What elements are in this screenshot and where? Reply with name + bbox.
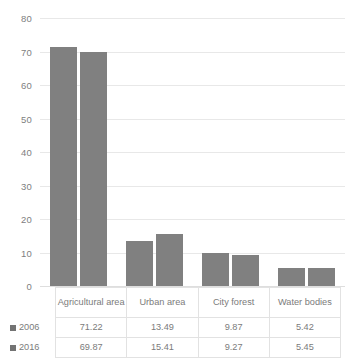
data-table-body: Agricultural areaUrban areaCity forestWa… xyxy=(8,288,341,358)
y-axis-tick-labels: 01020304050607080 xyxy=(0,18,36,286)
y-tick-label: 60 xyxy=(21,80,32,91)
y-tick-label: 50 xyxy=(21,113,32,124)
category-row: Agricultural areaUrban areaCity forestWa… xyxy=(8,288,341,318)
bar-group xyxy=(116,18,192,286)
table-cell-value: 15.41 xyxy=(127,338,198,358)
category-label: City forest xyxy=(198,288,269,318)
table-cell-value: 5.42 xyxy=(269,318,340,338)
table-row: 201669.8715.419.275.45 xyxy=(8,338,341,358)
table-cell-value: 5.45 xyxy=(269,338,340,358)
data-table: Agricultural areaUrban areaCity forestWa… xyxy=(8,287,341,358)
y-tick-label: 20 xyxy=(21,214,32,225)
bar xyxy=(50,47,77,286)
table-cell-value: 71.22 xyxy=(56,318,127,338)
table-cell-value: 9.27 xyxy=(198,338,269,358)
bar-group xyxy=(193,18,269,286)
y-tick-label: 10 xyxy=(21,247,32,258)
series-label: 2016 xyxy=(19,342,39,352)
table-cell-value: 69.87 xyxy=(56,338,127,358)
table-row: 200671.2213.499.875.42 xyxy=(8,318,341,338)
table-corner-cell xyxy=(8,288,56,318)
y-tick-label: 70 xyxy=(21,46,32,57)
y-tick-label: 80 xyxy=(21,13,32,24)
bar-group xyxy=(40,18,116,286)
table-cell-value: 9.87 xyxy=(198,318,269,338)
category-label: Urban area xyxy=(127,288,198,318)
bar xyxy=(202,253,229,286)
y-tick-label: 40 xyxy=(21,147,32,158)
bar xyxy=(278,268,305,286)
table-cell-value: 13.49 xyxy=(127,318,198,338)
plot-area xyxy=(40,18,345,286)
bar xyxy=(232,255,259,286)
bar xyxy=(80,52,107,286)
legend-swatch-icon xyxy=(10,325,16,331)
category-label: Agricultural area xyxy=(56,288,127,318)
legend-entry: 2016 xyxy=(8,338,56,358)
series-label: 2006 xyxy=(19,322,39,332)
y-tick-label: 30 xyxy=(21,180,32,191)
bar xyxy=(126,241,153,286)
legend-swatch-icon xyxy=(10,345,16,351)
bar-groups xyxy=(40,18,345,286)
bar-group xyxy=(269,18,345,286)
legend-entry: 2006 xyxy=(8,318,56,338)
bar xyxy=(156,234,183,286)
bar xyxy=(308,268,335,286)
category-label: Water bodies xyxy=(269,288,340,318)
